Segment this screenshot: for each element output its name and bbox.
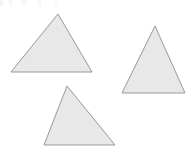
triangle-upper-left[interactable] — [11, 14, 92, 72]
figure-canvas — [0, 0, 192, 153]
triangles-figure — [0, 0, 192, 153]
triangle-right[interactable] — [122, 26, 185, 93]
triangle-lower-center[interactable] — [44, 86, 115, 145]
